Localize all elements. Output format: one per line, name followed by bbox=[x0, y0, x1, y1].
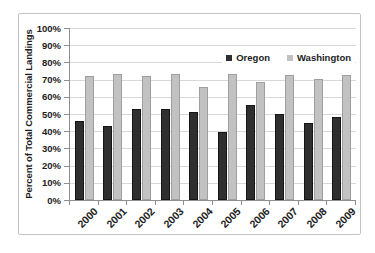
bar-oregon-2001 bbox=[103, 126, 112, 200]
y-tick-mark bbox=[64, 183, 69, 184]
x-tick-mark bbox=[326, 201, 327, 205]
legend-item-oregon: Oregon bbox=[226, 52, 270, 63]
y-tick-mark bbox=[64, 166, 69, 167]
oregon-series-swatch-icon bbox=[226, 55, 232, 61]
x-tick-mark bbox=[183, 201, 184, 205]
x-tick-label-2002: 2002 bbox=[131, 205, 156, 230]
chart-frame: Percent of Total Commercial Landings Ore… bbox=[18, 13, 361, 235]
bar-washington-2006 bbox=[256, 82, 265, 200]
bar-oregon-2007 bbox=[275, 114, 284, 200]
y-tick-mark bbox=[64, 45, 69, 46]
plot-area: Oregon Washington bbox=[69, 28, 356, 201]
bar-oregon-2000 bbox=[75, 121, 84, 200]
x-tick-mark bbox=[98, 201, 99, 205]
x-tick-mark bbox=[355, 201, 356, 205]
y-tick-mark bbox=[64, 114, 69, 115]
x-tick-label-2004: 2004 bbox=[189, 205, 214, 230]
y-tick-label-60pct: 60% bbox=[29, 91, 61, 102]
x-tick-label-2009: 2009 bbox=[332, 205, 357, 230]
y-tick-mark bbox=[64, 62, 69, 63]
x-tick-mark bbox=[155, 201, 156, 205]
y-tick-label-80pct: 80% bbox=[29, 57, 61, 68]
y-tick-label-70pct: 70% bbox=[29, 74, 61, 85]
legend: Oregon Washington bbox=[222, 50, 355, 65]
x-tick-label-2007: 2007 bbox=[274, 205, 299, 230]
bar-washington-2005 bbox=[228, 74, 237, 200]
x-tick-label-2006: 2006 bbox=[246, 205, 271, 230]
y-tick-label-90pct: 90% bbox=[29, 40, 61, 51]
x-tick-label-2005: 2005 bbox=[217, 205, 242, 230]
legend-label-oregon: Oregon bbox=[236, 52, 270, 63]
gridline-100 bbox=[70, 28, 356, 29]
bar-washington-2002 bbox=[142, 76, 151, 200]
y-tick-label-30pct: 30% bbox=[29, 143, 61, 154]
y-tick-label-40pct: 40% bbox=[29, 126, 61, 137]
bar-oregon-2002 bbox=[132, 109, 141, 200]
y-tick-label-50pct: 50% bbox=[29, 109, 61, 120]
y-tick-mark bbox=[64, 97, 69, 98]
x-tick-label-2001: 2001 bbox=[103, 205, 128, 230]
y-tick-label-0pct: 0% bbox=[29, 195, 61, 206]
bar-washington-2000 bbox=[85, 76, 94, 200]
y-tick-mark bbox=[64, 80, 69, 81]
y-tick-mark bbox=[64, 28, 69, 29]
x-tick-mark bbox=[126, 201, 127, 205]
y-tick-label-10pct: 10% bbox=[29, 177, 61, 188]
x-tick-label-2008: 2008 bbox=[303, 205, 328, 230]
bar-washington-2001 bbox=[113, 74, 122, 200]
gridline-90 bbox=[70, 45, 356, 46]
bar-oregon-2005 bbox=[218, 132, 227, 200]
bar-washington-2007 bbox=[285, 75, 294, 200]
x-tick-mark bbox=[212, 201, 213, 205]
x-tick-mark bbox=[241, 201, 242, 205]
bar-oregon-2008 bbox=[304, 123, 313, 200]
y-tick-label-20pct: 20% bbox=[29, 160, 61, 171]
bar-washington-2004 bbox=[199, 87, 208, 200]
washington-series-swatch-icon bbox=[287, 55, 293, 61]
bar-oregon-2004 bbox=[189, 112, 198, 200]
y-tick-mark bbox=[64, 131, 69, 132]
bar-oregon-2006 bbox=[246, 105, 255, 200]
bar-washington-2009 bbox=[342, 75, 351, 200]
legend-label-washington: Washington bbox=[297, 52, 351, 63]
x-tick-mark bbox=[269, 201, 270, 205]
x-tick-mark bbox=[69, 201, 70, 205]
x-tick-label-2003: 2003 bbox=[160, 205, 185, 230]
x-tick-label-2000: 2000 bbox=[74, 205, 99, 230]
bar-washington-2008 bbox=[314, 79, 323, 200]
bar-washington-2003 bbox=[171, 74, 180, 200]
legend-item-washington: Washington bbox=[287, 52, 351, 63]
bar-oregon-2003 bbox=[161, 109, 170, 200]
y-tick-label-100pct: 100% bbox=[29, 23, 61, 34]
x-tick-mark bbox=[298, 201, 299, 205]
bar-oregon-2009 bbox=[332, 117, 341, 200]
page-background: Percent of Total Commercial Landings Ore… bbox=[0, 0, 375, 253]
y-tick-mark bbox=[64, 148, 69, 149]
